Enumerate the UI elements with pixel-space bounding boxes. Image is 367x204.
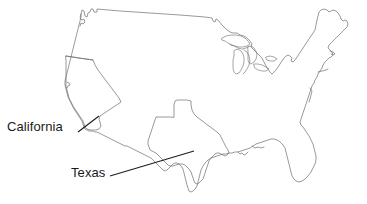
usa-country-outline <box>65 9 348 192</box>
gulf-coast-detail <box>252 146 264 148</box>
texas-leader-line <box>110 151 194 176</box>
cape-mendocino-detail <box>67 82 70 88</box>
puget-sound-detail <box>80 14 85 26</box>
lake-erie-outline <box>254 64 269 71</box>
california-label: California <box>7 120 63 133</box>
mississippi-delta-detail <box>238 152 248 155</box>
texas-label: Texas <box>71 166 105 179</box>
california-state-outline <box>66 56 121 130</box>
lake-ontario-outline <box>266 56 277 61</box>
lake-michigan-outline <box>233 49 244 74</box>
texas-state-outline <box>148 100 229 184</box>
us-map-svg <box>0 0 367 204</box>
us-map-figure: California Texas <box>0 0 367 204</box>
long-island-detail <box>318 69 328 72</box>
